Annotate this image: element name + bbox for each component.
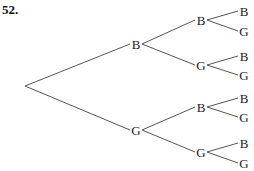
branch-line <box>142 107 195 130</box>
node-label: G <box>196 145 205 160</box>
node-label: B <box>197 100 206 115</box>
branch-line <box>207 107 238 117</box>
leaf-label: B <box>240 4 249 19</box>
branch-line <box>207 65 238 75</box>
branch-line <box>207 11 238 20</box>
branch-line <box>142 20 195 44</box>
tree-diagram: BGBGBGBGBGBGBG <box>0 0 254 171</box>
leaf-label: G <box>239 68 248 83</box>
branch-line <box>207 143 238 152</box>
branch-line <box>142 44 195 65</box>
branch-line <box>25 86 130 130</box>
branch-line <box>207 98 238 107</box>
node-label: B <box>197 13 206 28</box>
branch-line <box>207 20 238 31</box>
leaf-label: G <box>239 156 248 171</box>
leaf-label: B <box>240 91 249 106</box>
branch-line <box>207 152 238 163</box>
leaf-label: B <box>240 136 249 151</box>
branch-line <box>207 56 238 65</box>
leaf-label: G <box>239 110 248 125</box>
node-label: G <box>131 123 140 138</box>
node-label: G <box>196 58 205 73</box>
branch-line <box>25 44 130 86</box>
node-label: B <box>132 37 141 52</box>
leaf-label: B <box>240 49 249 64</box>
branch-line <box>142 130 195 152</box>
leaf-label: G <box>239 24 248 39</box>
